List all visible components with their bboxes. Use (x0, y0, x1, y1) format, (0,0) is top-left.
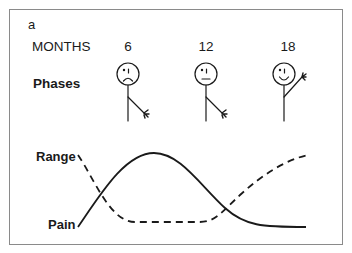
dashed-curve (78, 155, 308, 222)
stick-figure-sad-icon (117, 63, 149, 121)
diagram-canvas (0, 0, 352, 253)
solid-curve (78, 153, 306, 227)
stick-figure-neutral-icon (195, 63, 227, 121)
stick-figure-happy-icon (273, 63, 306, 121)
